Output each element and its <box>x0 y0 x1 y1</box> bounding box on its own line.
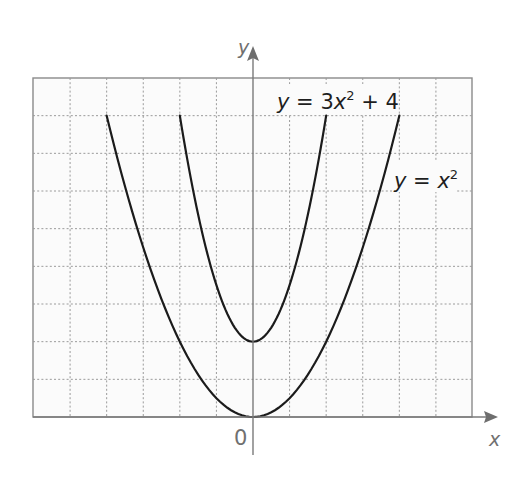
origin-label: 0 <box>234 426 247 450</box>
curve-label-x2: y = x2 <box>393 167 458 193</box>
x-axis-arrow-icon <box>484 411 498 423</box>
y-axis-label: y <box>237 36 250 58</box>
parabola-graph: x y 0 y = 3x2 + 4 y = x2 <box>0 0 521 484</box>
x-axis-label: x <box>488 428 501 450</box>
curve-label-3x2-plus-4: y = 3x2 + 4 <box>276 88 399 114</box>
